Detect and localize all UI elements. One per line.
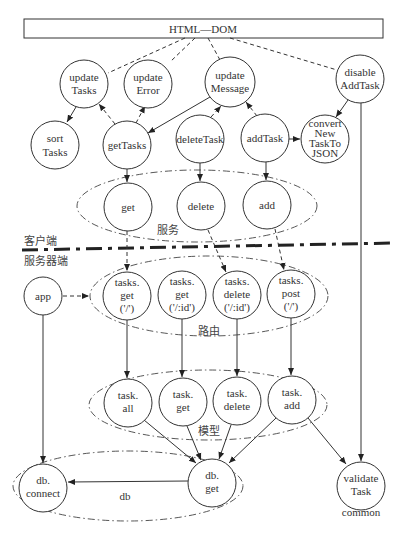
node-update-message: update Message: [205, 57, 255, 107]
node-route-delete-id: tasks. delete ('/:id'): [213, 271, 261, 319]
node-delete-task: deleteTask: [176, 115, 224, 163]
node-convert-new-task-to-json: convert New TaskTo JSON: [301, 115, 349, 163]
svg-text:sort: sort: [47, 132, 64, 144]
node-update-error: update Error: [124, 60, 172, 108]
node-service-delete: delete: [177, 182, 225, 230]
svg-text:app: app: [35, 290, 51, 302]
svg-text:update: update: [133, 71, 162, 83]
node-get-tasks: getTasks: [103, 121, 151, 169]
svg-text:('/'): ('/'): [284, 300, 299, 313]
svg-text:tasks.: tasks.: [279, 274, 304, 286]
svg-text:update: update: [69, 71, 98, 83]
node-service-get: get: [104, 183, 152, 231]
svg-text:('/:id'): ('/:id'): [169, 301, 195, 314]
svg-text:('/'): ('/'): [120, 302, 135, 315]
svg-text:task.: task.: [118, 389, 139, 401]
node-sort-tasks: sort Tasks: [31, 121, 79, 169]
svg-text:addTask: addTask: [247, 132, 284, 144]
node-route-get-id: tasks. get ('/:id'): [158, 271, 206, 319]
svg-text:delete: delete: [224, 288, 250, 300]
edge-updateTasks-sortTasks: [67, 107, 76, 122]
node-update-tasks: update Tasks: [60, 60, 108, 108]
svg-text:Error: Error: [136, 84, 160, 96]
edge-deleteTask-updateMessage: [211, 106, 221, 117]
svg-text:Tasks: Tasks: [72, 84, 97, 96]
svg-text:post: post: [282, 287, 300, 299]
svg-text:tasks.: tasks.: [225, 275, 250, 287]
svg-text:delete: delete: [224, 400, 250, 412]
node-db-connect: db. connect: [19, 464, 67, 512]
server-label: 服务器端: [24, 255, 68, 268]
node-task-add: task. add: [268, 376, 316, 424]
edge-addTask-updateMessage: [246, 102, 257, 116]
edge-disableAddTask-convert: [336, 100, 348, 117]
svg-text:getTasks: getTasks: [108, 139, 146, 151]
svg-text:tasks.: tasks.: [170, 275, 195, 287]
svg-text:db.: db.: [36, 474, 50, 486]
node-task-delete: task. delete: [213, 377, 261, 425]
svg-text:('/:id'): ('/:id'): [224, 301, 250, 314]
node-validate-task: validate Task: [337, 462, 385, 510]
node-app: app: [24, 277, 62, 315]
edge-taskAll-dbGet: [144, 420, 196, 463]
node-service-add: add: [243, 181, 291, 229]
edge-dom-updateError: [170, 38, 195, 62]
svg-text:get: get: [121, 201, 134, 213]
svg-text:get: get: [176, 401, 189, 413]
edge-getTasks-updateError: [136, 106, 145, 123]
client-server-divider: [22, 243, 395, 250]
svg-text:task.: task.: [173, 388, 194, 400]
svg-text:JSON: JSON: [312, 147, 338, 159]
svg-text:tasks.: tasks.: [115, 276, 140, 288]
svg-text:add: add: [284, 399, 300, 411]
html-dom-box: HTML—DOM: [24, 19, 383, 38]
svg-text:delete: delete: [188, 200, 214, 212]
html-dom-title: HTML—DOM: [169, 23, 237, 35]
edge-taskDelete-dbGet: [219, 425, 231, 459]
svg-text:get: get: [205, 482, 218, 494]
svg-text:connect: connect: [26, 487, 60, 499]
node-route-get-all: tasks. get ('/'): [103, 272, 151, 320]
edge-dom-updateMessage: [208, 38, 220, 60]
svg-text:get: get: [120, 289, 133, 301]
svg-text:task.: task.: [282, 386, 303, 398]
edge-delete-route: [208, 230, 226, 272]
edge-getTasks-updateTasks: [99, 104, 115, 124]
node-db-get: db. get: [188, 459, 236, 507]
svg-text:AddTask: AddTask: [340, 79, 380, 91]
svg-text:disable: disable: [344, 66, 375, 78]
svg-text:task.: task.: [227, 387, 248, 399]
client-label: 客户端: [24, 234, 57, 248]
svg-text:db.: db.: [205, 469, 219, 481]
node-task-all: task. all: [104, 379, 152, 427]
group-routes-label: 路由: [198, 324, 220, 338]
node-task-get: task. get: [159, 378, 207, 426]
edge-dbGet-dbConnect: [68, 481, 188, 482]
svg-text:Message: Message: [211, 82, 250, 94]
node-disable-addtask: disable AddTask: [336, 55, 384, 103]
svg-text:Tasks: Tasks: [43, 146, 68, 158]
svg-text:validate: validate: [344, 472, 379, 484]
svg-text:Task: Task: [351, 485, 372, 497]
group-model-label: 模型: [198, 424, 220, 438]
svg-text:get: get: [175, 288, 188, 300]
architecture-diagram: HTML—DOM 服务 路由 模型 db common 客户端 服务器端: [0, 0, 409, 533]
svg-text:deleteTask: deleteTask: [177, 133, 224, 145]
edge-taskAdd-validateTask: [308, 418, 346, 464]
svg-text:add: add: [259, 199, 275, 211]
group-services-label: 服务: [157, 224, 179, 237]
node-add-task: addTask: [241, 114, 289, 162]
svg-text:update: update: [215, 69, 244, 81]
node-route-post: tasks. post ('/'): [267, 270, 315, 318]
svg-text:all: all: [123, 402, 134, 414]
group-db-label: db: [120, 490, 132, 502]
